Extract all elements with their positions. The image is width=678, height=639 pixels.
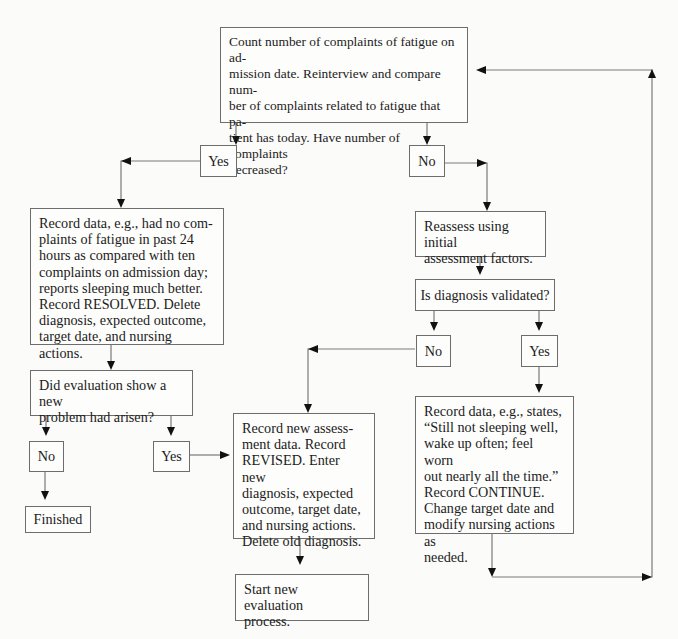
continue-line: Record data, e.g., states, [424, 403, 565, 419]
arrowhead-icon [476, 66, 486, 74]
arrowhead-icon [535, 322, 543, 331]
arrowhead-icon [167, 427, 175, 436]
resolved-line: plaints of fatigue in past 24 [39, 231, 215, 247]
decision-no-3: No [416, 335, 451, 367]
decision-yes-3-label: Yes [529, 343, 550, 359]
revised-line: diagnosis, expected [242, 485, 366, 501]
revised-record-box: Record new assess- ment data. Record REV… [233, 413, 375, 539]
arrowhead-icon [308, 345, 318, 353]
continue-record-box: Record data, e.g., states, “Still not sl… [415, 396, 574, 534]
continue-line: out nearly all the time.” [424, 468, 565, 484]
arrowhead-icon [488, 568, 496, 577]
continue-line: “Still not sleeping well, [424, 419, 565, 435]
decision-yes-2-label: Yes [161, 448, 182, 464]
continue-line: wake up often; feel worn [424, 435, 565, 467]
resolved-line: Record RESOLVED. Delete [39, 296, 215, 312]
arrowhead-icon [121, 157, 131, 165]
arrowhead-icon [117, 199, 125, 208]
decision-no-1: No [409, 145, 445, 177]
continue-line: needed. [424, 549, 565, 565]
reassess-line: Reassess using initial [424, 218, 537, 250]
decision-no-1-label: No [418, 153, 435, 169]
start-question-line: Count number of complaints of fatigue on… [229, 34, 459, 66]
arrowhead-icon [42, 427, 50, 436]
start-question-line: mission date. Reinterview and compare nu… [229, 66, 459, 98]
reassess-box: Reassess using initial assessment factor… [415, 211, 546, 257]
start-question-box: Count number of complaints of fatigue on… [220, 27, 468, 123]
revised-line: REVISED. Enter new [242, 452, 366, 484]
decision-no-2-label: No [38, 448, 55, 464]
revised-line: outcome, target date, [242, 501, 366, 517]
decision-yes-2: Yes [153, 441, 190, 472]
resolved-record-box: Record data, e.g., had no com- plaints o… [30, 208, 224, 345]
resolved-line: complaints on admission day; [39, 264, 215, 280]
decision-yes-3: Yes [521, 335, 558, 367]
start-new-line: Start new evaluation [244, 581, 360, 613]
arrowhead-icon [107, 361, 115, 370]
arrowhead-icon [483, 202, 491, 211]
decision-yes-1: Yes [200, 145, 237, 177]
continue-line: modify nursing actions as [424, 516, 565, 548]
finished-box: Finished [25, 506, 91, 533]
resolved-line: reports sleeping much better. [39, 280, 215, 296]
revised-line: Delete old diagnosis. [242, 533, 366, 549]
arrowhead-icon [642, 573, 652, 581]
start-question-line: ber of complaints related to fatigue tha… [229, 98, 459, 130]
diagnosis-validated-label: Is diagnosis validated? [420, 287, 549, 303]
arrowhead-icon [477, 159, 487, 167]
resolved-line: diagnosis, expected outcome, [39, 312, 215, 328]
diagnosis-validated-box: Is diagnosis validated? [415, 279, 555, 311]
start-new-evaluation-box: Start new evaluation process. [235, 574, 369, 621]
start-new-line: process. [244, 613, 360, 629]
connector-no-to-revised [308, 349, 415, 405]
arrowhead-icon [41, 491, 49, 500]
connector-yes-to-resolved [121, 161, 200, 200]
decision-yes-1-label: Yes [208, 153, 229, 169]
finished-label: Finished [34, 511, 83, 527]
resolved-line: target date, and nursing actions. [39, 328, 215, 360]
revised-line: ment data. Record [242, 436, 366, 452]
revised-line: and nursing actions. [242, 517, 366, 533]
arrowhead-icon [535, 384, 543, 393]
arrowhead-icon [296, 556, 304, 565]
arrowhead-icon [648, 69, 656, 78]
reassess-line: assessment factors. [424, 250, 537, 266]
arrowhead-icon [220, 451, 230, 459]
new-problem-question-box: Did evaluation show a new problem had ar… [30, 370, 193, 416]
continue-line: Change target date and [424, 500, 565, 516]
new-problem-line: Did evaluation show a new [39, 377, 184, 409]
decision-no-3-label: No [425, 343, 442, 359]
resolved-line: Record data, e.g., had no com- [39, 215, 215, 231]
arrowhead-icon [304, 404, 312, 413]
arrowhead-icon [430, 322, 438, 331]
arrowhead-icon [476, 266, 484, 275]
revised-line: Record new assess- [242, 420, 366, 436]
new-problem-line: problem had arisen? [39, 409, 184, 425]
decision-no-2: No [29, 441, 64, 472]
resolved-line: hours as compared with ten [39, 247, 215, 263]
continue-line: Record CONTINUE. [424, 484, 565, 500]
